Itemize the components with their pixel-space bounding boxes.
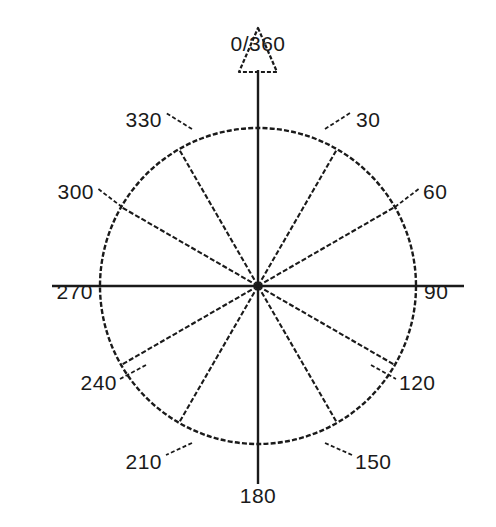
degree-labels-group: 0/360306090120150180210240270300330	[56, 32, 448, 507]
leader-line-60	[395, 188, 420, 207]
compass-rose-diagram: 0/360306090120150180210240270300330	[0, 0, 496, 527]
spoke-60	[258, 207, 395, 286]
spoke-330	[179, 149, 258, 286]
spoke-300	[121, 207, 258, 286]
spokes-group	[100, 128, 416, 444]
degree-label-210: 210	[125, 450, 162, 473]
degree-label-300: 300	[57, 180, 94, 203]
spoke-240	[121, 286, 258, 365]
leader-line-300	[97, 188, 122, 207]
leader-line-330	[166, 113, 192, 129]
spoke-150	[258, 286, 337, 423]
leader-line-30	[325, 113, 350, 129]
degree-label-30: 30	[356, 108, 380, 131]
leader-line-150	[325, 443, 352, 455]
leader-line-240	[120, 365, 146, 379]
degree-label-120: 120	[399, 371, 436, 394]
north-label-0-360: 0/360	[230, 32, 285, 55]
spoke-120	[258, 286, 395, 365]
spoke-30	[258, 149, 337, 286]
degree-label-330: 330	[125, 108, 162, 131]
degree-label-240: 240	[80, 371, 117, 394]
degree-label-180: 180	[240, 484, 277, 507]
spoke-210	[179, 286, 258, 423]
degree-label-60: 60	[423, 180, 447, 203]
leader-line-210	[166, 443, 192, 455]
degree-label-90: 90	[424, 280, 448, 303]
leader-line-120	[371, 365, 396, 379]
compass-rose-canvas: 0/360306090120150180210240270300330	[0, 0, 496, 527]
degree-label-150: 150	[355, 450, 392, 473]
degree-label-270: 270	[56, 280, 93, 303]
